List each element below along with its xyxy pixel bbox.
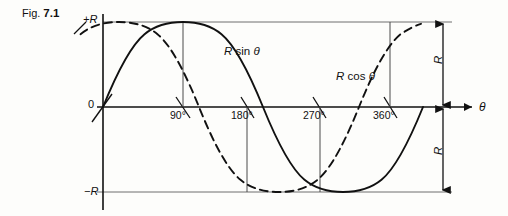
cosine-label-variable: θ bbox=[369, 70, 375, 82]
origin-slash-tick bbox=[92, 94, 112, 122]
sine-label-amplitude: R bbox=[224, 45, 232, 57]
amplitude-label-lower: R bbox=[433, 147, 445, 155]
y-axis-min-label: −R bbox=[84, 186, 98, 197]
trig-graph-svg bbox=[0, 0, 508, 216]
sine-curve-label: R sin θ bbox=[224, 46, 260, 58]
figure-caption: Fig.7.1 bbox=[22, 8, 59, 20]
y-axis-max-label: +R bbox=[83, 14, 97, 25]
sine-label-function: sin bbox=[236, 45, 251, 57]
xtick-label-270: 270° bbox=[303, 110, 325, 121]
figure-container: Fig.7.1 +R −R 0 90° 180° 270° 360° θ R s… bbox=[0, 0, 508, 216]
xtick-label-360: 360° bbox=[373, 110, 395, 121]
cosine-label-function: cos bbox=[348, 70, 366, 82]
amplitude-label-upper: R bbox=[433, 56, 445, 64]
cosine-curve-label: R cos θ bbox=[336, 71, 375, 83]
x-axis-label: θ bbox=[479, 101, 486, 113]
figure-caption-prefix: Fig. bbox=[22, 7, 40, 19]
xtick-label-90: 90° bbox=[170, 110, 186, 121]
xtick-label-180: 180° bbox=[231, 110, 253, 121]
sine-label-variable: θ bbox=[253, 45, 259, 57]
origin-label: 0 bbox=[88, 99, 94, 110]
cosine-label-amplitude: R bbox=[336, 70, 344, 82]
figure-caption-number: 7.1 bbox=[43, 7, 59, 19]
